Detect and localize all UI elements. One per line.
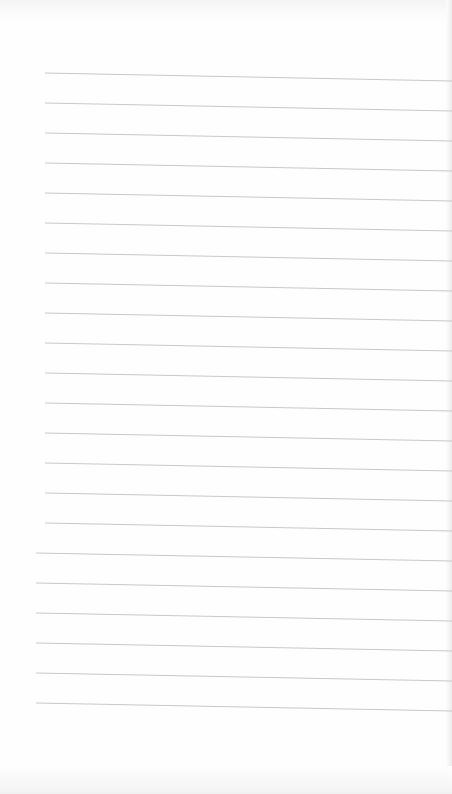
ruled-lines: [0, 0, 452, 794]
ruled-line: [45, 373, 452, 381]
ruled-line: [45, 523, 452, 531]
ruled-line: [45, 463, 452, 471]
ruled-line: [45, 433, 452, 441]
ruled-line: [45, 343, 452, 351]
ruled-line: [45, 403, 452, 411]
ruled-line: [45, 313, 452, 321]
ruled-line: [36, 553, 452, 561]
ruled-line: [36, 613, 452, 621]
ruled-line: [45, 103, 452, 111]
ruled-line: [45, 493, 452, 501]
ruled-line: [45, 253, 452, 261]
ruled-line: [45, 133, 452, 141]
ruled-line: [36, 583, 452, 591]
ruled-line: [45, 283, 452, 291]
ruled-line: [36, 703, 452, 711]
ruled-line: [45, 223, 452, 231]
lined-paper-sheet: [0, 0, 452, 794]
ruled-line: [45, 163, 452, 171]
ruled-line: [36, 643, 452, 651]
ruled-line: [45, 73, 452, 81]
ruled-line: [45, 193, 452, 201]
ruled-line: [36, 673, 452, 681]
